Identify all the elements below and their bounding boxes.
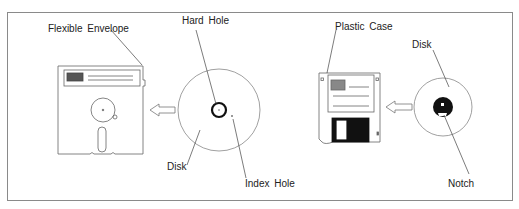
floppy-disk-diagram: Flexible Envelope Hard Hole Disk Index H… bbox=[0, 0, 519, 209]
disk-label-right: Disk bbox=[412, 39, 432, 50]
notch bbox=[438, 113, 447, 116]
index-hole bbox=[231, 115, 233, 117]
index-hole-label: Index Hole bbox=[245, 178, 295, 189]
spindle-hole bbox=[441, 103, 444, 106]
disk-label-left: Disk bbox=[167, 161, 187, 172]
disk-right bbox=[414, 78, 472, 136]
hard-hole-label: Hard Hole bbox=[182, 15, 229, 26]
notch-label: Notch bbox=[448, 178, 474, 189]
flexible-envelope-label: Flexible Envelope bbox=[48, 23, 129, 34]
flexible-envelope bbox=[58, 66, 145, 154]
arrow-left-icon-2 bbox=[386, 101, 412, 113]
plastic-case bbox=[319, 73, 380, 144]
disk-left bbox=[178, 69, 260, 151]
plastic-case-label: Plastic Case bbox=[335, 21, 393, 32]
arrow-left-icon bbox=[150, 104, 175, 116]
